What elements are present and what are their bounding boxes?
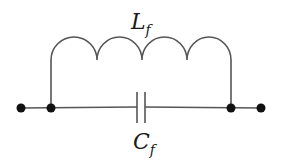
wire-left — [21, 107, 137, 108]
inductor-label-main: L — [131, 9, 146, 34]
terminal-left-node — [17, 104, 26, 113]
capacitor-symbol — [137, 92, 145, 123]
capacitor-label-main: C — [133, 129, 150, 154]
inductor-symbol — [51, 37, 231, 108]
terminal-right-node — [257, 104, 266, 113]
capacitor-label-subscript: f — [150, 142, 155, 158]
wire-right — [145, 107, 261, 108]
junction-right-node — [227, 104, 236, 113]
capacitor-label: Cf — [133, 131, 155, 153]
inductor-label-subscript: f — [146, 22, 151, 38]
inductor-label: Lf — [131, 11, 151, 33]
circuit-diagram: Lf Cf — [0, 0, 283, 168]
junction-left-node — [47, 104, 56, 113]
